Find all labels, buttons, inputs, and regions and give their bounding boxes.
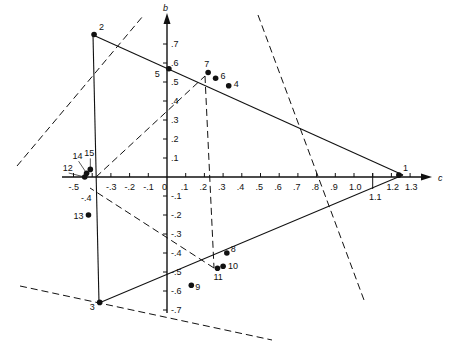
annotation-one-point-one: 1.1 xyxy=(369,192,382,202)
point-9 xyxy=(189,283,195,289)
dashed-line-to-7 xyxy=(96,76,205,177)
point-label: 11 xyxy=(213,272,222,282)
c-tick-label: .6 xyxy=(274,182,282,192)
point-label: 3 xyxy=(90,302,95,312)
point-label: 2 xyxy=(99,22,104,32)
dashed-line-bottom xyxy=(20,286,272,340)
c-tick-label: .7 xyxy=(293,182,301,192)
b-tick-label: .3 xyxy=(171,115,179,125)
edge-3-1 xyxy=(99,175,403,303)
ternary-projection-diagram: -.5-.3-.2-.10.1.2.3.4.5.6.7.8.91.01.21.3… xyxy=(0,0,460,353)
b-tick-label: .1 xyxy=(171,153,179,163)
c-tick-label: .3 xyxy=(218,182,226,192)
point-10 xyxy=(220,264,226,270)
point-label: 13 xyxy=(73,211,83,221)
c-axis-label: c xyxy=(438,173,443,183)
c-tick-label: -.5 xyxy=(69,182,80,192)
c-tick-label: .9 xyxy=(330,182,338,192)
b-tick-label: .6 xyxy=(171,58,179,68)
edge-2-1 xyxy=(93,35,403,175)
c-tick-label: .5 xyxy=(256,182,264,192)
b-tick-label: -.2 xyxy=(171,210,182,220)
point-label: 12 xyxy=(63,163,73,173)
b-tick-label: -.3 xyxy=(171,229,182,239)
dashed-line-upper-left xyxy=(17,16,143,166)
point-label: 1 xyxy=(403,163,408,173)
b-tick-label: -.4 xyxy=(171,248,182,258)
b-tick-label: .7 xyxy=(171,39,179,49)
data-points: 123456789101112131415 xyxy=(63,22,408,313)
c-tick-label: -.1 xyxy=(143,182,154,192)
point-label: 15 xyxy=(84,148,94,158)
b-tick-label: -.7 xyxy=(171,305,182,315)
point-label: 4 xyxy=(234,79,239,89)
point-label: 5 xyxy=(155,69,160,79)
dashed-line-11-back xyxy=(90,188,214,268)
point-1 xyxy=(396,172,402,178)
point-label: 7 xyxy=(204,59,209,69)
point-label: 9 xyxy=(195,282,200,292)
c-tick-label: -.3 xyxy=(106,182,117,192)
point-label: 6 xyxy=(221,71,226,81)
annotation-neg-point-four: -.4 xyxy=(81,193,92,203)
b-tick-label: -.6 xyxy=(171,286,182,296)
c-tick-label: .8 xyxy=(312,182,320,192)
dashed-line-7-11 xyxy=(205,76,214,268)
c-tick-label: 1.0 xyxy=(349,182,362,192)
point-4 xyxy=(226,83,232,89)
edge-2-3 xyxy=(93,35,99,303)
c-tick-label: .4 xyxy=(237,182,245,192)
point-2 xyxy=(91,32,97,38)
point-3 xyxy=(97,300,103,306)
c-tick-label: 1.2 xyxy=(386,182,399,192)
dashed-line-right xyxy=(258,15,364,300)
point-8 xyxy=(224,250,230,256)
leader-line xyxy=(79,161,87,173)
b-tick-label: .2 xyxy=(171,134,179,144)
c-tick-label: -.2 xyxy=(125,182,136,192)
b-tick-label: -.1 xyxy=(171,191,182,201)
c-tick-label: .1 xyxy=(181,182,189,192)
point-5 xyxy=(166,66,172,72)
point-13 xyxy=(86,212,92,218)
point-label: 10 xyxy=(228,261,238,271)
triangle xyxy=(93,35,403,303)
b-axis-arrow xyxy=(164,13,171,24)
b-tick-label: .5 xyxy=(171,77,179,87)
c-tick-label: .2 xyxy=(199,182,207,192)
point-label: 8 xyxy=(231,244,236,254)
b-axis-label: b xyxy=(163,3,168,13)
point-6 xyxy=(213,75,219,81)
point-label: 14 xyxy=(73,151,83,161)
c-axis-ticks: -.5-.3-.2-.10.1.2.3.4.5.6.7.8.91.01.21.3 xyxy=(69,173,418,192)
c-tick-label: 0 xyxy=(162,182,167,192)
c-tick-label: 1.3 xyxy=(405,182,418,192)
point-11 xyxy=(215,265,221,271)
point-7 xyxy=(205,70,211,76)
c-axis-arrow xyxy=(421,174,432,181)
